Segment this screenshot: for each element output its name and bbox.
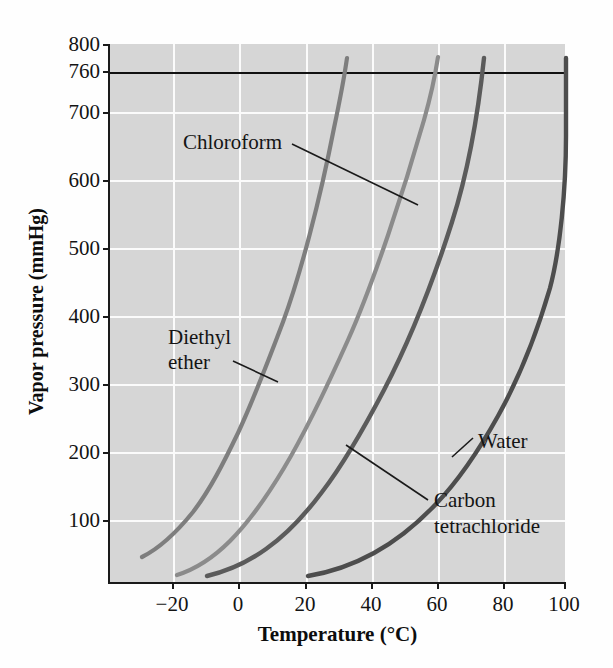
x-tick-label-80: 80: [468, 592, 538, 617]
gridline-horizontal-300: [110, 384, 565, 386]
y-axis-spine: [108, 44, 110, 584]
x-tick-60: [437, 583, 439, 589]
series-label-diethyl-ether-line1: Diethyl: [168, 325, 231, 350]
gridline-vertical-0: [239, 44, 241, 582]
x-tick-label-40: 40: [336, 592, 406, 617]
x-tick-label-minus20: −20: [137, 592, 207, 617]
x-tick-0: [238, 583, 240, 589]
series-label-carbon-line2: tetrachloride: [434, 513, 540, 539]
vapor-pressure-chart-figure: 800 760 700 600 500 400 300 200 100 −20 …: [0, 0, 613, 668]
y-tick-label-300: 300: [40, 372, 100, 397]
gridline-vertical-minus20: [173, 44, 175, 582]
y-tick-label-760: 760: [40, 59, 100, 84]
x-tick-label-100: 100: [529, 592, 599, 617]
y-axis-title: Vapor pressure (mmHg): [25, 172, 48, 452]
gridline-horizontal-500: [110, 248, 565, 250]
y-tick-760: [103, 71, 109, 73]
series-label-chloroform: Chloroform: [183, 130, 282, 155]
y-tick-300: [103, 384, 109, 386]
y-tick-600: [103, 180, 109, 182]
series-label-carbon-tetrachloride: Carbon tetrachloride: [434, 487, 540, 539]
x-axis-spine: [108, 582, 566, 584]
y-tick-label-700: 700: [40, 100, 100, 125]
series-label-diethyl-ether: Diethyl ether: [168, 325, 231, 375]
y-tick-500: [103, 248, 109, 250]
y-tick-100: [103, 520, 109, 522]
gridline-horizontal-700: [110, 112, 565, 114]
y-tick-label-800: 800: [40, 32, 100, 57]
x-tick-label-0: 0: [203, 592, 273, 617]
x-tick-label-20: 20: [270, 592, 340, 617]
x-tick-40: [371, 583, 373, 589]
x-tick-20: [305, 583, 307, 589]
gridline-horizontal-400: [110, 316, 565, 318]
series-label-diethyl-ether-line2: ether: [168, 350, 231, 375]
y-tick-label-400: 400: [40, 304, 100, 329]
y-tick-200: [103, 452, 109, 454]
x-tick-100: [564, 583, 566, 589]
y-tick-label-100: 100: [40, 508, 100, 533]
x-tick-80: [503, 583, 505, 589]
y-tick-800: [103, 44, 109, 46]
x-tick-minus20: [172, 583, 174, 589]
series-label-water: Water: [478, 429, 528, 454]
series-label-carbon-line1: Carbon: [434, 487, 540, 513]
y-tick-label-200: 200: [40, 440, 100, 465]
y-tick-label-600: 600: [40, 168, 100, 193]
x-tick-label-60: 60: [402, 592, 472, 617]
x-axis-title: Temperature (°C): [110, 622, 565, 647]
gridline-vertical-40: [372, 44, 374, 582]
y-tick-400: [103, 316, 109, 318]
gridline-horizontal-600: [110, 180, 565, 182]
y-tick-700: [103, 112, 109, 114]
gridline-vertical-20: [306, 44, 308, 582]
y-tick-label-500: 500: [40, 236, 100, 261]
